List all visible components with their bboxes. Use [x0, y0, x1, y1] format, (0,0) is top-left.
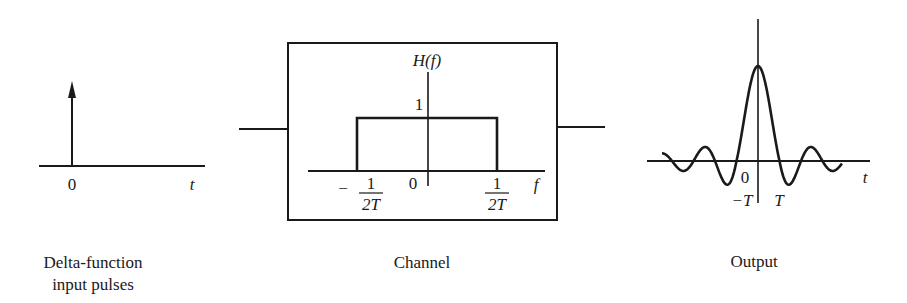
positive-T-label: T: [774, 191, 785, 210]
output-panel: 0 t −T T Output: [647, 19, 870, 271]
delta-impulse-arrowhead-icon: [68, 81, 76, 98]
channel-response-diagram: 0 t Delta-function input pulses H(f) 1 0…: [0, 0, 907, 303]
right-cutoff-numerator: 1: [493, 174, 502, 193]
right-cutoff-denominator: 2T: [488, 195, 508, 214]
output-axis-label: t: [863, 168, 869, 187]
ideal-lowpass-response: [357, 118, 497, 171]
frequency-origin-label: 0: [409, 174, 418, 193]
input-caption-line2: input pulses: [52, 275, 134, 294]
left-cutoff-sign: −: [338, 179, 348, 198]
frequency-axis-label: f: [534, 175, 541, 194]
unity-level-label: 1: [415, 95, 424, 114]
left-cutoff-numerator: 1: [367, 174, 376, 193]
right-cutoff-label: 1 2T: [485, 174, 509, 214]
channel-panel: H(f) 1 0 f − 1 2T 1 2T Channel: [239, 43, 605, 272]
output-origin-label: 0: [741, 168, 750, 187]
left-cutoff-denominator: 2T: [362, 195, 382, 214]
channel-caption: Channel: [394, 253, 451, 272]
input-axis-label: t: [190, 175, 196, 194]
input-origin-label: 0: [68, 175, 77, 194]
input-caption-line1: Delta-function: [43, 253, 143, 272]
sinc-output-pulse: [662, 66, 842, 185]
left-cutoff-label: − 1 2T: [338, 174, 383, 214]
transfer-function-label: H(f): [412, 51, 442, 70]
input-panel: 0 t Delta-function input pulses: [39, 81, 205, 294]
negative-T-label: −T: [732, 191, 754, 210]
output-caption: Output: [730, 252, 778, 271]
